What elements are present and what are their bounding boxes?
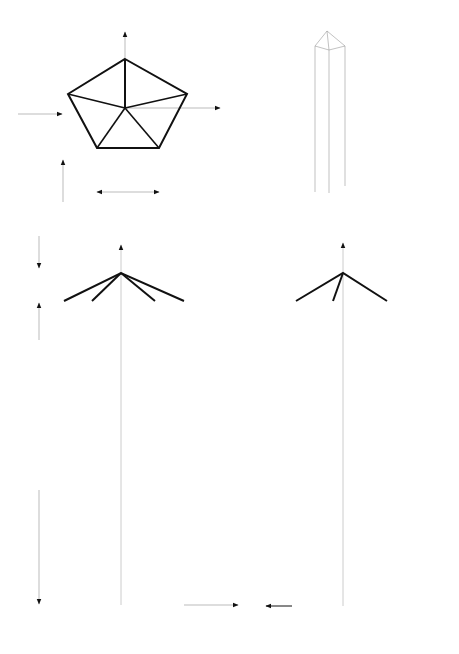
- structure-diagram: [0, 0, 459, 654]
- top-view-drawing: [18, 32, 220, 202]
- elevation-b-drawing: [266, 243, 387, 606]
- perspective-drawing: [315, 31, 345, 193]
- elevation-a-drawing: [39, 236, 238, 605]
